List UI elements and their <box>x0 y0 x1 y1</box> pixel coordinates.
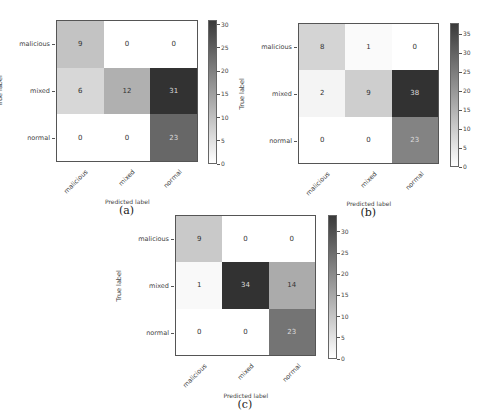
matrix-cell: 9 <box>57 21 104 68</box>
y-tick-label: normal <box>248 137 292 145</box>
matrix-cell: 8 <box>299 24 345 70</box>
colorbar-tick: 25 <box>221 44 229 51</box>
matrix-cell: 0 <box>269 216 315 262</box>
colorbar-tick: 0 <box>341 355 345 362</box>
confusion-matrix-b: 81029380023 <box>298 23 439 164</box>
matrix-cell: 0 <box>176 309 222 355</box>
matrix-cell: 0 <box>104 114 151 161</box>
confusion-matrix-c: 900134140023 <box>175 215 316 356</box>
x-tick-label: malicious <box>174 362 208 396</box>
colorbar-tick: 0 <box>221 160 225 167</box>
x-tick-label: malicious <box>55 168 89 202</box>
y-tick-label: mixed <box>248 90 292 98</box>
matrix-cell: 12 <box>104 68 151 115</box>
colorbar-tick: 20 <box>463 87 471 94</box>
confusion-matrix-a: 900612310023 <box>56 20 198 162</box>
x-tick-label: malicious <box>297 170 331 204</box>
matrix-cell: 23 <box>269 309 315 355</box>
matrix-cell: 9 <box>345 70 391 116</box>
y-tick-label: normal <box>6 134 50 142</box>
colorbar-tick: 5 <box>221 137 225 144</box>
matrix-cell: 0 <box>345 117 391 163</box>
y-tick-label: mixed <box>6 87 50 95</box>
colorbar-tick: 10 <box>221 114 229 121</box>
x-tick-label: mixed <box>221 362 255 396</box>
colorbar-b <box>450 23 459 167</box>
colorbar-tick: 15 <box>341 291 349 298</box>
matrix-cell: 0 <box>104 21 151 68</box>
y-tick-label: malicious <box>125 235 169 243</box>
colorbar-a <box>208 20 217 164</box>
colorbar-tick: 0 <box>463 163 467 170</box>
colorbar-tick: 5 <box>463 144 467 151</box>
matrix-cell: 0 <box>150 21 197 68</box>
matrix-cell: 31 <box>150 68 197 115</box>
matrix-cell: 0 <box>57 114 104 161</box>
colorbar-tick: 20 <box>341 270 349 277</box>
x-tick-label: normal <box>268 362 302 396</box>
matrix-cell: 0 <box>392 24 438 70</box>
panel-caption-c: (c) <box>238 398 253 411</box>
matrix-cell: 38 <box>392 70 438 116</box>
matrix-cell: 23 <box>392 117 438 163</box>
colorbar-tick: 25 <box>341 249 349 256</box>
matrix-cell: 0 <box>222 216 268 262</box>
colorbar-tick: 25 <box>463 68 471 75</box>
matrix-cell: 1 <box>176 262 222 308</box>
y-tick-label: mixed <box>125 282 169 290</box>
matrix-cell: 34 <box>222 262 268 308</box>
colorbar-tick: 30 <box>341 228 349 235</box>
y-axis-title: True label <box>238 78 246 110</box>
matrix-cell: 0 <box>299 117 345 163</box>
matrix-cell: 23 <box>150 114 197 161</box>
colorbar-tick: 20 <box>221 67 229 74</box>
matrix-cell: 2 <box>299 70 345 116</box>
x-tick-label: normal <box>150 168 184 202</box>
colorbar-tick: 30 <box>221 21 229 28</box>
y-tick-label: malicious <box>6 40 50 48</box>
y-tick-label: malicious <box>248 43 292 51</box>
x-tick-label: mixed <box>344 170 378 204</box>
colorbar-tick: 15 <box>463 106 471 113</box>
panel-caption-a: (a) <box>119 204 134 217</box>
colorbar-tick: 35 <box>463 30 471 37</box>
y-tick-label: normal <box>125 329 169 337</box>
matrix-cell: 9 <box>176 216 222 262</box>
colorbar-tick: 5 <box>341 334 345 341</box>
colorbar-c <box>328 215 337 359</box>
colorbar-tick: 10 <box>341 313 349 320</box>
colorbar-tick: 15 <box>221 90 229 97</box>
panel-caption-b: (b) <box>361 206 377 219</box>
colorbar-tick: 10 <box>463 125 471 132</box>
y-axis-title: True label <box>115 270 123 302</box>
matrix-cell: 14 <box>269 262 315 308</box>
matrix-cell: 1 <box>345 24 391 70</box>
matrix-cell: 0 <box>222 309 268 355</box>
colorbar-tick: 30 <box>463 49 471 56</box>
x-tick-label: normal <box>391 170 425 204</box>
x-tick-label: mixed <box>103 168 137 202</box>
matrix-cell: 6 <box>57 68 104 115</box>
y-axis-title: True label <box>0 75 4 107</box>
